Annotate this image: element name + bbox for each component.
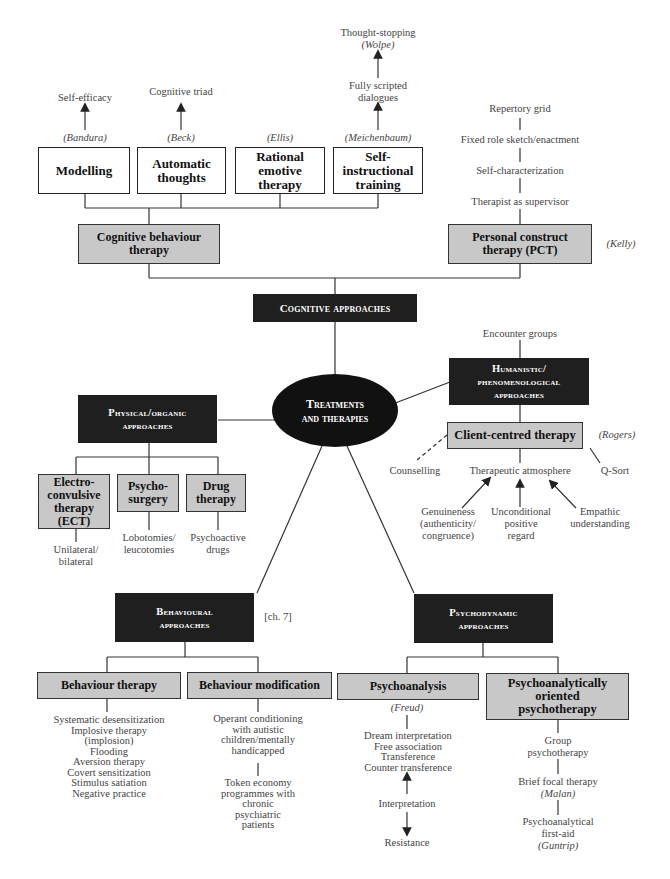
malan-author: (Malan) (498, 788, 618, 800)
thought-stopping-label: Thought-stopping (Wolpe) (323, 27, 433, 51)
ect-line: (ECT) (58, 515, 91, 528)
condition-line: Genuineness (408, 506, 488, 518)
ellis-author: (Ellis) (240, 132, 320, 144)
chain-line: Brief focal therapy (498, 776, 618, 788)
psychoanalysis-node: Psychoanalysis (337, 673, 479, 700)
bm-line: handicapped (195, 746, 321, 757)
encounter-groups-label: Encounter groups (460, 328, 580, 340)
psychodynamic-title-2: approaches (458, 619, 508, 632)
self-instructional-node: Self-instructional training (333, 147, 423, 194)
bt-item: Systematic desensitization (37, 715, 181, 726)
below-line: Psychoactive (180, 532, 256, 544)
condition-line: Unconditional (485, 506, 557, 518)
chain-line: Psychoanalytical (508, 816, 608, 828)
drug-therapy-node: Drug therapy (186, 474, 246, 512)
pa-item: Transference (347, 752, 469, 763)
bm-line: patients (205, 820, 311, 831)
qsort-label: Q-Sort (590, 465, 640, 477)
physical-node: Physical/organic approaches (78, 395, 217, 443)
counselling-label: Counselling (375, 465, 455, 477)
operant-conditioning-label: Operant conditioning with autistic child… (195, 714, 321, 756)
central-node: Treatments and therapies (272, 374, 398, 447)
humanistic-node: Humanistic/ phenomenological approaches (449, 358, 589, 405)
guntrip-author: (Guntrip) (508, 840, 608, 852)
unilateral-label: Unilateral/ bilateral (36, 544, 116, 568)
pct-chain-item: Fixed role sketch/enactment (430, 134, 610, 146)
psychodynamic-title-1: Psychodynamic (449, 606, 518, 619)
bm-line: Operant conditioning (195, 714, 321, 725)
humanistic-title-3: approaches (494, 388, 544, 401)
freud-author: (Freud) (377, 702, 437, 714)
condition-line: congruence) (408, 530, 488, 542)
behavioural-node: Behavioural approaches (115, 593, 254, 642)
bm-line: children/mentally (195, 735, 321, 746)
pct-chain-item: Repertory grid (450, 103, 590, 115)
first-aid-label: Psychoanalytical first-aid (Guntrip) (508, 816, 608, 852)
pct-chain-item: Self-characterization (450, 165, 590, 177)
psychoanalysis-techniques: Dream interpretation Free association Tr… (347, 731, 469, 773)
pct-node: Personal construct therapy (PCT) (448, 224, 592, 264)
bt-item: Aversion therapy (37, 757, 181, 768)
psychoanalytically-oriented-node: Psychoanalytically oriented psychotherap… (486, 673, 629, 720)
condition-line: understanding (560, 518, 640, 530)
chapter-ref: [ch. 7] (258, 611, 298, 623)
condition-line: (authenticity/ (408, 518, 488, 530)
genuineness-label: Genuineness (authenticity/ congruence) (408, 506, 488, 542)
beck-author: (Beck) (141, 132, 221, 144)
cognitive-triad-label: Cognitive triad (141, 86, 221, 98)
central-line2: and therapies (302, 411, 369, 425)
condition-line: Empathic (560, 506, 640, 518)
drug-line: therapy (196, 493, 236, 506)
cognitive-approaches-node: Cognitive approaches (253, 294, 417, 322)
rational-emotive-node: Rational emotive therapy (235, 147, 325, 194)
wolpe-author: (Wolpe) (362, 39, 395, 50)
client-centred-node: Client-centred therapy (447, 422, 583, 449)
scripted-dialogues-label: Fully scripted dialogues (333, 80, 423, 104)
behavioural-title-1: Behavioural (156, 605, 213, 618)
modelling-node: Modelling (38, 147, 130, 194)
below-line: bilateral (36, 556, 116, 568)
behavioural-title-2: approaches (159, 618, 209, 631)
bm-line: chronic (205, 799, 311, 810)
cbt-node: Cognitive behaviour therapy (78, 224, 220, 264)
behaviour-therapy-node: Behaviour therapy (37, 672, 181, 699)
chain-line: first-aid (508, 828, 608, 840)
kelly-author: (Kelly) (596, 238, 646, 250)
humanistic-title-1: Humanistic/ (492, 362, 546, 375)
oriented-line: psychotherapy (518, 703, 596, 716)
bt-item: Stimulus satiation (37, 778, 181, 789)
psychodynamic-node: Psychodynamic approaches (414, 594, 553, 643)
atmosphere-label: Therapeutic atmosphere (455, 465, 585, 477)
ect-line: therapy (54, 502, 94, 515)
unconditional-label: Unconditional positive regard (485, 506, 557, 542)
pct-chain-item: Therapist as supervisor (450, 196, 590, 208)
interpretation-label: Interpretation (357, 798, 457, 810)
ect-line: Electro- (53, 476, 94, 489)
condition-line: regard (485, 530, 557, 542)
physical-title-1: Physical/organic (108, 406, 186, 419)
central-line1: Treatments (306, 397, 364, 411)
humanistic-title-2: phenomenological (478, 375, 561, 388)
below-line: drugs (180, 544, 256, 556)
automatic-thoughts-node: Automatic thoughts (137, 147, 226, 194)
token-economy-label: Token economy programmes with chronic ps… (205, 778, 311, 831)
below-line: Lobotomies/ (110, 532, 188, 544)
bandura-author: (Bandura) (45, 132, 125, 144)
behaviour-modification-node: Behaviour modification (187, 672, 332, 699)
resistance-label: Resistance (357, 837, 457, 849)
below-line: leucotomies (110, 544, 188, 556)
bt-item: (implosion) (37, 736, 181, 747)
physical-title-2: approaches (122, 419, 172, 432)
brief-focal-label: Brief focal therapy (Malan) (498, 776, 618, 800)
bt-item: Negative practice (37, 789, 181, 800)
ect-line: convulsive (47, 489, 100, 502)
bm-line: Token economy (205, 778, 311, 789)
pa-item: Dream interpretation (347, 731, 469, 742)
rogers-author: (Rogers) (587, 429, 647, 441)
psychoactive-label: Psychoactive drugs (180, 532, 256, 556)
thought-stopping-text: Thought-stopping (340, 27, 415, 38)
ect-node: Electro- convulsive therapy (ECT) (38, 474, 110, 529)
meichenbaum-author: (Meichenbaum) (328, 132, 428, 144)
below-line: Unilateral/ (36, 544, 116, 556)
self-efficacy-label: Self-efficacy (45, 92, 125, 104)
